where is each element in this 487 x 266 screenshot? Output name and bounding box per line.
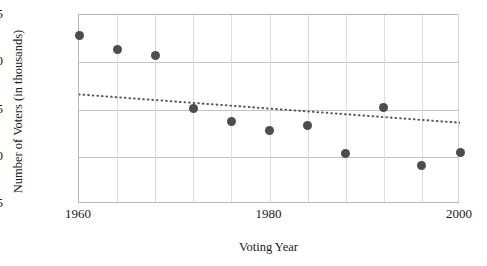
gridline-x-1968 [155,15,156,202]
x-axis-title: Voting Year [78,240,459,255]
chart-figure: Voting Year vs Number of Voters Number o… [0,0,487,266]
y-tick-label-50: 50 [0,149,3,162]
data-point-1968 [151,51,160,60]
data-point-1980 [265,126,274,135]
y-tick-label-60: 60 [0,54,3,67]
data-point-2000 [456,148,465,157]
gridline-x-1996 [422,15,423,202]
y-tick-label-65: 65 [0,7,3,20]
y-tick-label-45: 45 [0,196,3,209]
gridline-y-55 [79,110,458,111]
y-tick-label-55: 55 [0,102,3,115]
gridline-x-1964 [117,15,118,202]
gridline-x-1984 [308,15,309,202]
data-point-1972 [189,104,198,113]
gridline-y-50 [79,157,458,158]
gridline-x-1980 [270,15,271,202]
data-point-1960 [75,31,84,40]
data-point-1976 [227,117,236,126]
data-point-1996 [417,161,426,170]
plot-area [78,14,459,203]
x-tick-label-1960: 1960 [48,206,108,222]
data-point-1964 [113,45,122,54]
data-point-1984 [303,121,312,130]
gridline-x-1988 [346,15,347,202]
gridline-y-60 [79,62,458,63]
x-tick-label-2000: 2000 [429,206,487,222]
data-point-1992 [379,103,388,112]
x-tick-label-1980: 1980 [239,206,299,222]
gridline-x-1976 [231,15,232,202]
